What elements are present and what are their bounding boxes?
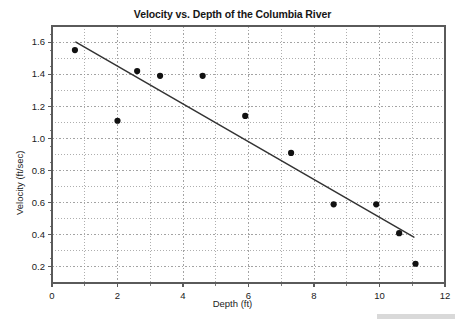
data-point <box>373 201 379 207</box>
y-tick-label: 1.0 <box>32 133 45 144</box>
y-tick-label: 1.2 <box>32 101 45 112</box>
y-axis-label: Velocity (ft/sec) <box>14 151 25 215</box>
data-point <box>242 113 248 119</box>
data-point <box>134 68 140 74</box>
scatter-plot-canvas: 0.20.40.60.81.01.21.41.6024681012 <box>0 0 465 325</box>
data-point <box>288 150 294 156</box>
y-tick-label: 0.4 <box>32 229 45 240</box>
data-point <box>331 201 337 207</box>
y-tick-label: 1.6 <box>32 36 45 47</box>
trend-line <box>76 42 414 237</box>
y-tick-label: 1.4 <box>32 68 45 79</box>
data-points <box>72 47 419 267</box>
chart-figure: Velocity vs. Depth of the Columbia River… <box>0 0 465 325</box>
data-point <box>200 73 206 79</box>
data-point <box>157 73 163 79</box>
axis-ticks <box>48 34 445 287</box>
data-point <box>72 47 78 53</box>
y-tick-label: 0.6 <box>32 197 45 208</box>
major-gridlines <box>52 26 445 283</box>
data-point <box>396 230 402 236</box>
x-axis-label: Depth (ft) <box>0 298 465 309</box>
page-edge-artifact <box>377 314 455 319</box>
data-point <box>114 118 120 124</box>
data-point <box>412 261 418 267</box>
y-tick-label: 0.8 <box>32 165 45 176</box>
y-tick-label: 0.2 <box>32 261 45 272</box>
tick-labels: 0.20.40.60.81.01.21.41.6024681012 <box>32 36 451 301</box>
